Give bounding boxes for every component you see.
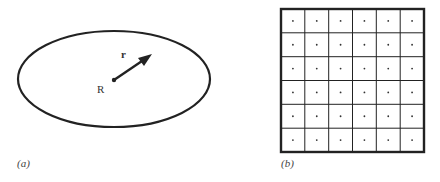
grid-cell-dot [292, 139, 294, 141]
caption-a: (a) [17, 157, 30, 169]
grid-cell-dot [364, 92, 366, 94]
grid-cell-dot [387, 68, 389, 70]
grid-cell-dot [340, 139, 342, 141]
grid-cell-dot [411, 139, 413, 141]
grid-cell-dot [340, 68, 342, 70]
vector-label-r: r [121, 48, 126, 60]
grid-cell-dot [292, 92, 294, 94]
grid-cell-dot [292, 20, 294, 22]
grid-cell-dot [387, 139, 389, 141]
grid-cell-dot [387, 20, 389, 22]
grid-cell-dot [387, 115, 389, 117]
panel-a: R r (a) [0, 0, 220, 182]
grid-cell-dot [364, 139, 366, 141]
grid-cell-dot [316, 44, 318, 46]
caption-b: (b) [281, 157, 294, 169]
grid-cell-dot [292, 68, 294, 70]
grid-cell-dot [316, 68, 318, 70]
grid-cell-dot [411, 68, 413, 70]
vector-r-arrow [114, 59, 145, 80]
grid-cell-dot [364, 20, 366, 22]
ellipse-diagram [0, 0, 220, 182]
grid-cell-dot [316, 139, 318, 141]
grid-cell-dot [387, 44, 389, 46]
point-r-dot [112, 78, 116, 82]
grid-cell-dot [364, 44, 366, 46]
grid-cell-dot [340, 92, 342, 94]
grid-cell-dot [316, 115, 318, 117]
grid-cell-dot [316, 20, 318, 22]
grid-cell-dot [364, 68, 366, 70]
grid-cell-dot [411, 44, 413, 46]
grid-cell-dot [364, 115, 366, 117]
grid-cell-dot [411, 115, 413, 117]
grid-cell-dot [387, 92, 389, 94]
panel-b: (b) [220, 0, 440, 182]
grid-cell-dot [292, 115, 294, 117]
grid-cell-dot [316, 92, 318, 94]
grid-cell-dot [411, 92, 413, 94]
point-label-R: R [97, 83, 104, 95]
grid-cell-dot [411, 20, 413, 22]
grid-cell-dot [292, 44, 294, 46]
grid-diagram [220, 0, 440, 182]
grid-cell-dot [340, 115, 342, 117]
grid-cell-dot [340, 44, 342, 46]
grid-cell-dot [340, 20, 342, 22]
